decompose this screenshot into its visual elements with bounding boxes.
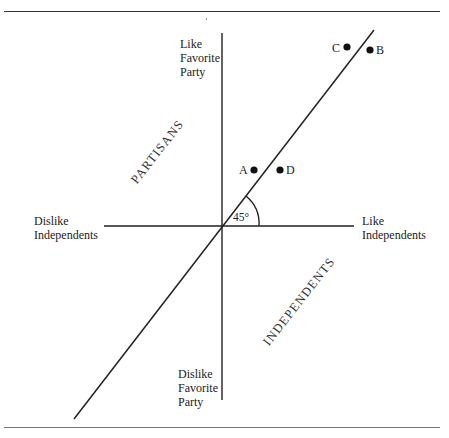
y-bottom-label-line3: Party [178, 395, 218, 409]
angle-label: 45° [233, 211, 249, 223]
x-left-label-line2: Independents [34, 228, 98, 242]
point-c-label: C [332, 42, 340, 54]
point-a-marker [250, 166, 257, 173]
point-a-label: A [239, 164, 248, 176]
y-top-label-line2: Favorite [180, 51, 220, 65]
bottom-rule [4, 427, 440, 428]
x-left-label-line1: Dislike [34, 214, 98, 228]
diagonal-line [74, 30, 374, 419]
point-d-label: D [286, 164, 295, 176]
y-bottom-label: Dislike Favorite Party [178, 367, 218, 409]
y-top-label-line1: Like [180, 37, 220, 51]
x-right-label-line1: Like [362, 214, 426, 228]
point-b-marker [366, 46, 373, 53]
x-right-label-line2: Independents [362, 228, 426, 242]
y-bottom-label-line1: Dislike [178, 367, 218, 381]
x-left-label: Dislike Independents [34, 214, 98, 242]
y-top-label: Like Favorite Party [180, 37, 220, 79]
point-b-label: B [376, 44, 384, 56]
x-right-label: Like Independents [362, 214, 426, 242]
y-top-label-line3: Party [180, 65, 220, 79]
point-d-marker [276, 166, 283, 173]
y-bottom-label-line2: Favorite [178, 381, 218, 395]
point-c-marker [343, 43, 350, 50]
